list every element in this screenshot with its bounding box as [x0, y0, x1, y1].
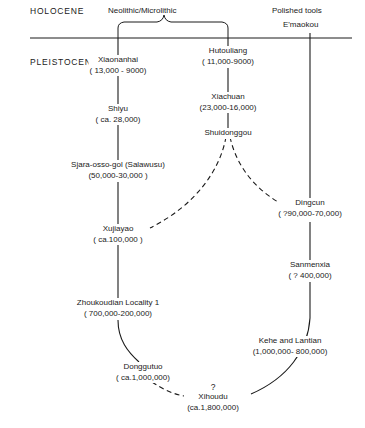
- node-name: Sjara-osso-gol (Salawusu): [71, 160, 165, 171]
- node-name: Shuidonggou: [204, 128, 251, 139]
- node-date: ( ca.1,000,000): [116, 373, 170, 384]
- node-name: Xiachuan: [200, 92, 257, 103]
- node-date: (ca.1,800,000): [187, 403, 239, 414]
- node-date: ( 700,000-200,000): [77, 309, 159, 320]
- node-date: ( ? 400,000): [288, 271, 331, 282]
- node-name: Kehe and Lantian: [253, 336, 328, 347]
- node-shuidonggou: Shuidonggou: [203, 128, 252, 139]
- node-date: ( ca.100,000 ): [93, 235, 142, 246]
- node-zhoukoudian-locality-1: Zhoukoudian Locality 1 ( 700,000-200,000…: [76, 298, 160, 319]
- node-name: Sanmenxia: [288, 260, 331, 271]
- node-xihoudu: Xihoudu (ca.1,800,000): [186, 392, 240, 413]
- node-name: Shiyu: [96, 104, 141, 115]
- node-name: Donggutuo: [116, 362, 170, 373]
- node-date: (23,000-16,000): [200, 103, 257, 114]
- chronology-diagram: HOLOCENE PLEISTOCENE Neolithic/Microlith…: [0, 0, 365, 428]
- node-kehe-and-lantian: Kehe and Lantian (1,000,000- 800,000): [252, 336, 329, 357]
- node-sjara-osso-gol: Sjara-osso-gol (Salawusu) (50,000-30,000…: [70, 160, 166, 181]
- node-sanmenxia: Sanmenxia ( ? 400,000): [287, 260, 332, 281]
- node-name: Dingcun: [278, 198, 342, 209]
- dashed-shuidonggou-to-xujiayao: [150, 137, 226, 228]
- node-xujiayao: Xujiayao ( ca.100,000 ): [92, 224, 143, 245]
- node-date: ( 13,000 - 9000): [90, 66, 147, 77]
- tech-label-emaokou: E'maokou: [283, 20, 318, 29]
- node-hutouliang: Hutouliang ( 11,000-9000): [201, 46, 255, 67]
- neolithic-brace: [118, 15, 228, 38]
- node-donggutuo: Donggutuo ( ca.1,000,000): [115, 362, 171, 383]
- node-name: Xujiayao: [93, 224, 142, 235]
- node-xiaonanhai: Xiaonanhai ( 13,000 - 9000): [89, 55, 148, 76]
- tech-label-neolithic-microlithic: Neolithic/Microlithic: [108, 6, 176, 15]
- dashed-donggutuo-to-xihoudu: [152, 382, 184, 396]
- dashed-shuidonggou-to-dingcun: [230, 137, 278, 202]
- node-name: Xihoudu: [187, 392, 239, 403]
- node-xiachuan: Xiachuan (23,000-16,000): [199, 92, 258, 113]
- curve-zhoukoudian-to-donggutuo: [118, 320, 139, 362]
- node-name: Zhoukoudian Locality 1: [77, 298, 159, 309]
- node-date: (50,000-30,000 ): [71, 171, 165, 182]
- node-date: (1,000,000- 800,000): [253, 347, 328, 358]
- node-date: ( 11,000-9000): [202, 57, 254, 68]
- node-date: ( ca. 28,000): [96, 115, 141, 126]
- epoch-label-holocene: HOLOCENE: [30, 6, 84, 16]
- node-date: ( ?90,000-70,000): [278, 209, 342, 220]
- node-name: Hutouliang: [202, 46, 254, 57]
- uncertainty-question-mark: ?: [211, 382, 216, 392]
- node-shiyu: Shiyu ( ca. 28,000): [95, 104, 142, 125]
- tech-label-polished-tools: Polished tools: [272, 6, 322, 15]
- node-name: Xiaonanhai: [90, 55, 147, 66]
- node-dingcun: Dingcun ( ?90,000-70,000): [277, 198, 343, 219]
